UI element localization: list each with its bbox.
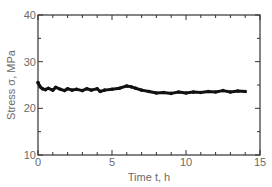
data-series-stress [36, 81, 247, 95]
data-point [214, 90, 218, 94]
data-point [206, 90, 210, 94]
data-point [81, 89, 85, 93]
y-tick-label: 20 [24, 102, 36, 114]
data-point [192, 90, 196, 94]
data-point [118, 86, 122, 90]
data-point [169, 92, 173, 96]
data-point [184, 91, 188, 95]
x-tick-labels: 051015 [35, 156, 266, 168]
data-point [162, 91, 166, 95]
data-point [66, 87, 70, 91]
data-point [147, 90, 151, 94]
data-point [36, 81, 40, 85]
data-point [155, 91, 159, 95]
stress-time-chart: 051015 10203040 Time t, h Stress σ, MPa [0, 0, 272, 187]
data-point [125, 84, 129, 88]
data-point [47, 86, 51, 90]
plot-border [38, 15, 260, 155]
y-axis-title: Stress σ, MPa [5, 49, 17, 120]
y-tick-label: 40 [24, 9, 36, 21]
data-point [89, 88, 93, 92]
data-point [95, 87, 99, 91]
data-point [140, 88, 144, 92]
data-point [134, 86, 138, 90]
data-point [98, 90, 102, 94]
data-point [63, 89, 67, 93]
data-point [129, 85, 133, 89]
y-tick-label: 10 [24, 149, 36, 161]
data-point [243, 90, 247, 94]
x-tick-label: 5 [109, 156, 115, 168]
data-point [199, 91, 203, 95]
y-tick-label: 30 [24, 56, 36, 68]
data-point [110, 87, 114, 91]
x-tick-label: 10 [180, 156, 192, 168]
data-point [221, 89, 225, 93]
data-point [177, 90, 181, 94]
x-axis-title: Time t, h [128, 171, 170, 183]
axis-ticks [38, 15, 260, 155]
data-point [51, 88, 55, 92]
data-point [236, 89, 240, 93]
y-tick-labels: 10203040 [24, 9, 36, 161]
data-point [58, 87, 62, 91]
data-point [103, 88, 107, 92]
x-tick-label: 15 [254, 156, 266, 168]
data-point [54, 86, 58, 90]
plot-frame [38, 15, 260, 155]
data-point [75, 87, 79, 91]
data-point [229, 90, 233, 94]
data-point [70, 88, 74, 92]
data-point [85, 87, 89, 91]
